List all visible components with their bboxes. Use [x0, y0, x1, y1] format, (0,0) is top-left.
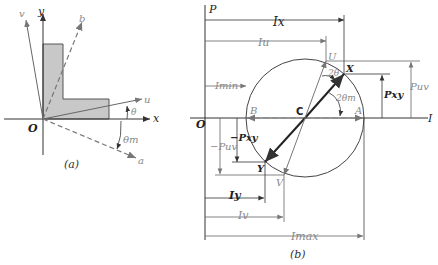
point-x-label: X: [345, 63, 355, 74]
y-axis-label: y: [37, 5, 45, 18]
theta-arc: [127, 106, 128, 119]
two-theta-m-label: 2θm: [335, 93, 356, 103]
puv-label: Puv: [409, 81, 429, 92]
point-b-label: B: [249, 105, 257, 116]
theta-m-arc: [117, 121, 121, 149]
caption-a: (a): [64, 158, 79, 171]
caption-b: (b): [290, 248, 306, 261]
origin-label-a: O: [28, 122, 38, 135]
imax-label: Imax: [290, 230, 319, 243]
x-axis-label: x: [153, 112, 160, 125]
origin-label-b: O: [196, 118, 206, 131]
p-axis-label: P: [208, 3, 217, 16]
diameter-cv: [284, 118, 305, 175]
two-theta-label: 2θ: [327, 68, 340, 78]
mohr-circle-figure: y v b u x a O θ θm (a): [0, 0, 438, 265]
neg-puv-label: −Puv: [210, 141, 238, 152]
i-axis-label: I: [427, 112, 433, 125]
point-a-label: A: [354, 105, 362, 116]
iv-label: Iv: [237, 209, 249, 222]
u-axis-label: u: [144, 94, 150, 105]
theta-label: θ: [131, 107, 137, 117]
figure-b: P I O Ix Iu Imin Pxy Puv −Pxy −Puv Iy Iv…: [190, 3, 433, 261]
point-c-label: C: [296, 106, 303, 117]
v-axis-label: v: [19, 8, 25, 19]
pxy-label: Pxy: [383, 89, 404, 100]
ix-label: Ix: [272, 15, 285, 29]
iy-label: Iy: [228, 189, 242, 202]
point-u-label: U: [328, 51, 337, 62]
diameter-cy: [265, 118, 305, 162]
imin-label: Imin: [214, 80, 238, 91]
b-axis-label: b: [79, 13, 85, 24]
theta-m-label: θm: [123, 134, 139, 145]
a-axis-label: a: [138, 155, 144, 166]
point-y-label: Y: [257, 163, 265, 174]
figure-a: y v b u x a O θ θm (a): [4, 5, 160, 171]
iu-label: Iu: [257, 36, 269, 49]
diameter-cu: [305, 61, 326, 118]
v-axis: [26, 20, 43, 119]
